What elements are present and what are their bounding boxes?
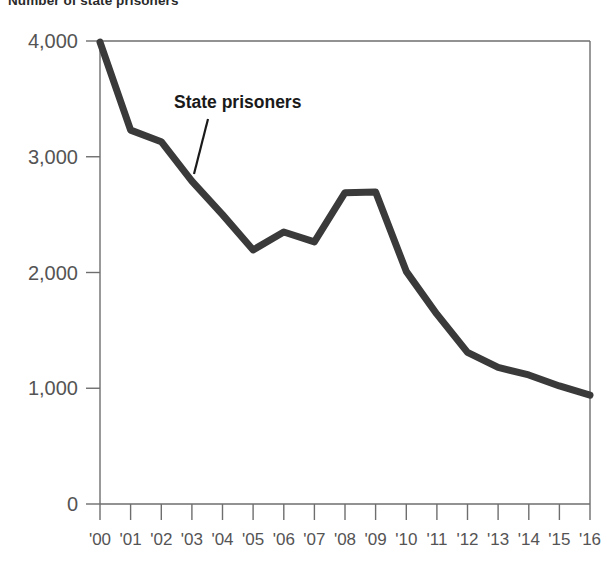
x-tick-label-12: '12 (456, 530, 478, 549)
x-tick-label-03: '03 (181, 530, 203, 549)
x-axis-labels: '00 '01 '02 '03 '04 '05 '06 '07 '08 '09 … (89, 530, 601, 549)
line-chart-plot: 4,000 3,000 2,000 1,000 0 (0, 0, 610, 565)
x-tick-label-02: '02 (150, 530, 172, 549)
x-tick-label-04: '04 (211, 530, 233, 549)
x-axis-ticks (100, 504, 590, 520)
x-tick-label-08: '08 (334, 530, 356, 549)
x-tick-label-13: '13 (487, 530, 509, 549)
x-tick-label-06: '06 (273, 530, 295, 549)
y-tick-label-1000: 1,000 (28, 377, 78, 399)
annotation-leader-line (194, 119, 208, 174)
y-tick-label-2000: 2,000 (28, 262, 78, 284)
x-tick-label-07: '07 (303, 530, 325, 549)
x-tick-label-05: '05 (242, 530, 264, 549)
x-tick-label-10: '10 (395, 530, 417, 549)
y-tick-label-3000: 3,000 (28, 146, 78, 168)
x-tick-label-16: '16 (579, 530, 601, 549)
x-tick-label-15: '15 (548, 530, 570, 549)
x-tick-label-14: '14 (518, 530, 540, 549)
chart-container: Number of state prisoners 4,000 3,000 2,… (0, 0, 610, 565)
x-tick-label-11: '11 (426, 530, 447, 549)
x-tick-label-09: '09 (365, 530, 387, 549)
y-axis-ticks (86, 41, 100, 504)
y-tick-label-0: 0 (67, 493, 78, 515)
series-annotation-label: State prisoners (174, 92, 302, 112)
y-axis-labels: 4,000 3,000 2,000 1,000 0 (28, 30, 78, 515)
x-tick-label-00: '00 (89, 530, 111, 549)
y-tick-label-4000: 4,000 (28, 30, 78, 52)
x-tick-label-01: '01 (120, 530, 142, 549)
